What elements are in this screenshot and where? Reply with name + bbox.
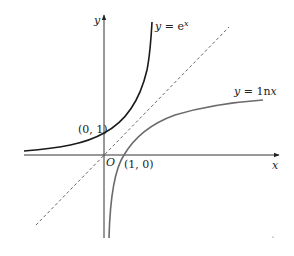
function-graph: y x O y = ex y = 1nx (0, 1) (1, 0) bbox=[0, 0, 294, 256]
point-1-0-label: (1, 0) bbox=[124, 158, 154, 171]
identity-line-dashed bbox=[36, 27, 229, 225]
ln-curve-label: y = 1nx bbox=[233, 85, 278, 98]
stray-dot bbox=[272, 236, 273, 237]
x-axis-label: x bbox=[272, 159, 279, 172]
origin-label: O bbox=[106, 156, 115, 169]
exp-curve-label: y = ex bbox=[154, 19, 189, 33]
y-axis-label: y bbox=[93, 14, 101, 27]
point-0-1-label: (0, 1) bbox=[78, 123, 108, 136]
exp-superscript: x bbox=[184, 19, 189, 28]
